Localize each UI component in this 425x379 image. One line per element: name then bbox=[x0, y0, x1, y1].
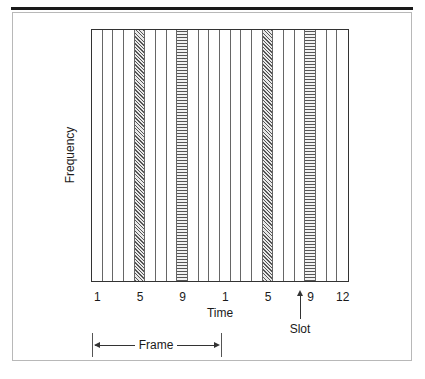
frame-span-line-right bbox=[177, 345, 217, 346]
frame-span-line-left bbox=[95, 345, 135, 346]
slot bbox=[231, 30, 242, 281]
frame-start-bar bbox=[92, 333, 93, 357]
slot-occupied bbox=[263, 30, 274, 281]
slot bbox=[103, 30, 114, 281]
slot bbox=[124, 30, 135, 281]
slot bbox=[337, 30, 348, 281]
x-axis-label: Time bbox=[207, 306, 233, 320]
x-tick-label: 12 bbox=[336, 290, 349, 304]
slot bbox=[327, 30, 338, 281]
time-frequency-grid bbox=[91, 29, 349, 282]
slot-occupied bbox=[305, 30, 316, 281]
slot bbox=[209, 30, 220, 281]
y-axis-label: Frequency bbox=[63, 127, 77, 184]
slot bbox=[252, 30, 263, 281]
slot bbox=[316, 30, 327, 281]
slot bbox=[273, 30, 284, 281]
slot bbox=[284, 30, 295, 281]
x-tick-label: 9 bbox=[179, 290, 186, 304]
slot bbox=[199, 30, 210, 281]
x-tick-label: 5 bbox=[137, 290, 144, 304]
slot bbox=[167, 30, 178, 281]
x-tick-label: 5 bbox=[265, 290, 272, 304]
x-tick-label: 1 bbox=[94, 290, 101, 304]
slot-pointer-arrow-icon bbox=[300, 295, 301, 319]
slot bbox=[92, 30, 103, 281]
frame-label: Frame bbox=[139, 338, 174, 352]
frame-arrow-right-icon bbox=[214, 342, 220, 348]
x-tick-label: 1 bbox=[222, 290, 229, 304]
slot bbox=[295, 30, 306, 281]
slot bbox=[220, 30, 231, 281]
slot-label: Slot bbox=[290, 322, 311, 336]
slot-occupied bbox=[177, 30, 188, 281]
slot bbox=[113, 30, 124, 281]
slot bbox=[241, 30, 252, 281]
top-rule bbox=[11, 7, 413, 10]
frame-end-bar bbox=[221, 333, 222, 357]
slot-occupied bbox=[135, 30, 146, 281]
slot bbox=[145, 30, 156, 281]
slot bbox=[188, 30, 199, 281]
slot bbox=[156, 30, 167, 281]
x-tick-label: 9 bbox=[307, 290, 314, 304]
